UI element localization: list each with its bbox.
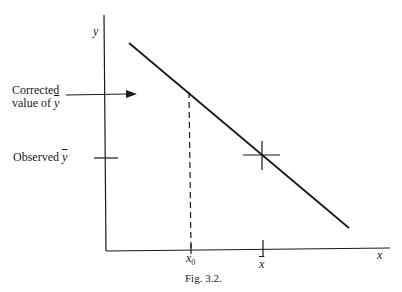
regression-line <box>129 43 349 228</box>
x0-label: x0 <box>186 252 195 269</box>
observed-label-text: Observed <box>13 150 62 164</box>
y-axis <box>104 15 106 251</box>
x-axis <box>106 248 390 251</box>
xbar-label: x <box>259 258 264 271</box>
figure-3-2: y Corrected value of y Observed y x0 x x… <box>0 0 402 292</box>
corrected-label-line2: value of y <box>12 97 59 110</box>
y-axis-label: y <box>93 25 98 38</box>
arrowhead-icon <box>126 90 137 98</box>
corrected-arrow <box>66 94 128 95</box>
x-axis-label: x <box>377 249 382 262</box>
x0-dashed-projection <box>189 92 191 250</box>
x0-subscript: 0 <box>191 258 195 267</box>
corrected-label-text: value of <box>12 96 54 110</box>
diagram-svg <box>0 0 402 292</box>
observed-label: Observed y <box>13 151 67 164</box>
figure-caption: Fig. 3.2. <box>185 272 222 285</box>
ybar-symbol: y <box>62 150 67 164</box>
ybar-symbol: y <box>54 96 59 110</box>
